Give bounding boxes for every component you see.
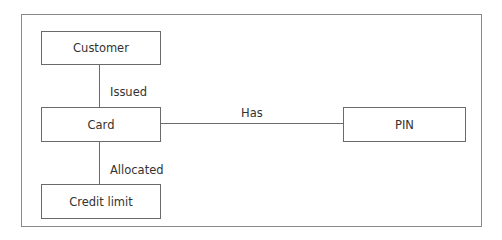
connector-card-pin (161, 123, 343, 124)
entity-card: Card (41, 107, 161, 142)
relationship-label-has: Has (241, 106, 263, 120)
connector-customer-card (99, 65, 100, 107)
entity-pin: PIN (343, 107, 466, 142)
entity-credit-limit-label: Credit limit (69, 195, 133, 209)
entity-pin-label: PIN (395, 118, 414, 132)
relationship-label-allocated: Allocated (110, 163, 164, 177)
connector-card-credit-limit (99, 142, 100, 184)
entity-credit-limit: Credit limit (41, 184, 161, 219)
relationship-label-issued: Issued (110, 85, 147, 99)
entity-card-label: Card (88, 118, 115, 132)
entity-customer: Customer (41, 31, 161, 65)
entity-customer-label: Customer (73, 41, 129, 55)
